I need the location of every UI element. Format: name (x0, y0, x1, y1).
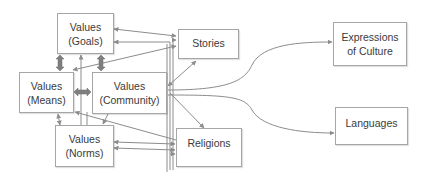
thick-arrow-means-community (74, 88, 91, 96)
node-sublabel: (Community) (99, 93, 159, 107)
node-sublabel: (Means) (27, 93, 66, 107)
edge-community-norms (103, 114, 108, 124)
node-label: Values (31, 79, 62, 93)
node-values-community: Values (Community) (92, 72, 167, 114)
node-languages: Languages (335, 107, 408, 145)
node-values-goals: Values (Goals) (57, 13, 114, 54)
node-label: Religions (187, 136, 230, 150)
diagram-canvas: Values (Goals) Values (Means) Values (Co… (0, 0, 427, 176)
thick-arrow-goals-means (56, 55, 64, 71)
node-sublabel: (Norms) (66, 146, 104, 160)
node-sublabel: (Goals) (68, 34, 102, 48)
node-values-means: Values (Means) (19, 72, 74, 113)
edge-goals-stories (114, 29, 176, 36)
node-stories: Stories (178, 29, 239, 59)
node-label: Expressions (341, 30, 398, 44)
node-label: Stories (192, 36, 225, 50)
node-label: Values (69, 132, 100, 146)
node-expressions-of-culture: Expressions of Culture (333, 22, 407, 66)
node-label: Values (70, 20, 101, 34)
edge-norms-religions (114, 142, 175, 144)
node-label: Languages (346, 116, 398, 130)
node-sublabel: of Culture (347, 44, 393, 58)
edge-community-religions (170, 93, 204, 128)
edge-community-stories (168, 61, 196, 86)
edge-means-norms (58, 114, 60, 125)
node-label: Values (114, 79, 145, 93)
node-values-norms: Values (Norms) (55, 125, 114, 167)
node-religions: Religions (176, 128, 242, 167)
